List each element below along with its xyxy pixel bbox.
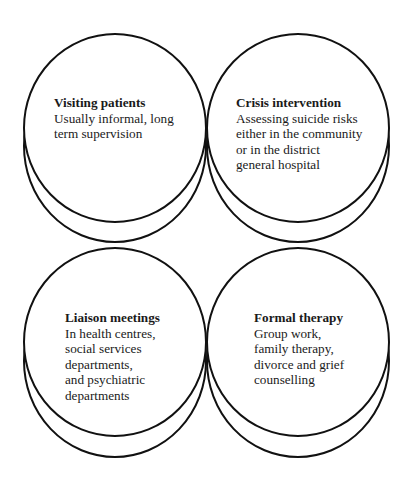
node-description-line: general hospital <box>236 157 362 173</box>
node-description-line: term supervision <box>54 126 174 142</box>
node-description-line: In health centres, <box>65 326 160 342</box>
node-title: Formal therapy <box>254 310 344 326</box>
node-title: Crisis intervention <box>236 95 362 111</box>
node-formal-therapy: Formal therapy Group work, family therap… <box>254 310 344 388</box>
node-description-line: either in the community <box>236 126 362 142</box>
node-visiting-patients: Visiting patients Usually informal, long… <box>54 95 174 142</box>
node-description-line: Assessing suicide risks <box>236 111 362 127</box>
node-description-line: social services <box>65 341 160 357</box>
diagram-canvas <box>0 0 412 487</box>
node-description-line: divorce and grief <box>254 357 344 373</box>
node-description-line: family therapy, <box>254 341 344 357</box>
node-description-line: Usually informal, long <box>54 111 174 127</box>
node-liaison-meetings: Liaison meetings In health centres, soci… <box>65 310 160 403</box>
node-title: Visiting patients <box>54 95 174 111</box>
node-crisis-intervention: Crisis intervention Assessing suicide ri… <box>236 95 362 173</box>
node-description-line: counselling <box>254 372 344 388</box>
node-description-line: or in the district <box>236 142 362 158</box>
node-description-line: departments <box>65 388 160 404</box>
node-description-line: Group work, <box>254 326 344 342</box>
node-description-line: and psychiatric <box>65 372 160 388</box>
node-description-line: departments, <box>65 357 160 373</box>
node-title: Liaison meetings <box>65 310 160 326</box>
